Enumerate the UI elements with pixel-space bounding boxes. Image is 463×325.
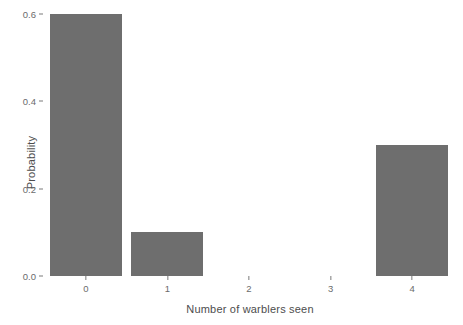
- y-axis-tick: 0.2: [23, 183, 45, 194]
- x-axis-tick-label: 3: [328, 283, 333, 294]
- x-axis-tick: 4: [410, 276, 415, 294]
- y-axis-tick: 0.4: [23, 96, 45, 107]
- y-axis-tick-label: 0.0: [23, 271, 36, 282]
- bar-category-0: [50, 14, 122, 276]
- x-axis-tick-label: 1: [165, 283, 170, 294]
- y-axis-tick: 0.6: [23, 9, 45, 20]
- x-axis-title: Number of warblers seen: [40, 303, 460, 315]
- bar-category-4: [376, 145, 448, 276]
- y-axis-tick-label: 0.4: [23, 96, 36, 107]
- bar-category-1: [131, 232, 203, 276]
- x-axis-tick-mark: [167, 276, 168, 280]
- y-axis-tick-label: 0.6: [23, 9, 36, 20]
- x-axis-tick: 2: [246, 276, 251, 294]
- x-axis-tick-label: 0: [83, 283, 88, 294]
- x-axis-tick-mark: [248, 276, 249, 280]
- y-axis-tick-mark: [39, 101, 43, 102]
- x-axis-tick-mark: [330, 276, 331, 280]
- y-axis-tick-mark: [39, 14, 43, 15]
- x-axis-tick-mark: [412, 276, 413, 280]
- y-axis-tick-mark: [39, 188, 43, 189]
- y-axis-tick-label: 0.2: [23, 183, 36, 194]
- plot-panel: 0.0 0.2 0.4 0.6 0 1: [45, 14, 453, 276]
- x-axis-tick-mark: [85, 276, 86, 280]
- y-axis-tick: 0.0: [23, 271, 45, 282]
- x-axis-tick-label: 2: [246, 283, 251, 294]
- x-axis-tick: 1: [165, 276, 170, 294]
- bar-chart-figure: Probability Number of warblers seen 0.0 …: [0, 0, 463, 325]
- x-axis-tick: 3: [328, 276, 333, 294]
- x-axis-tick-label: 4: [410, 283, 415, 294]
- x-axis-tick: 0: [83, 276, 88, 294]
- y-axis-tick-mark: [39, 276, 43, 277]
